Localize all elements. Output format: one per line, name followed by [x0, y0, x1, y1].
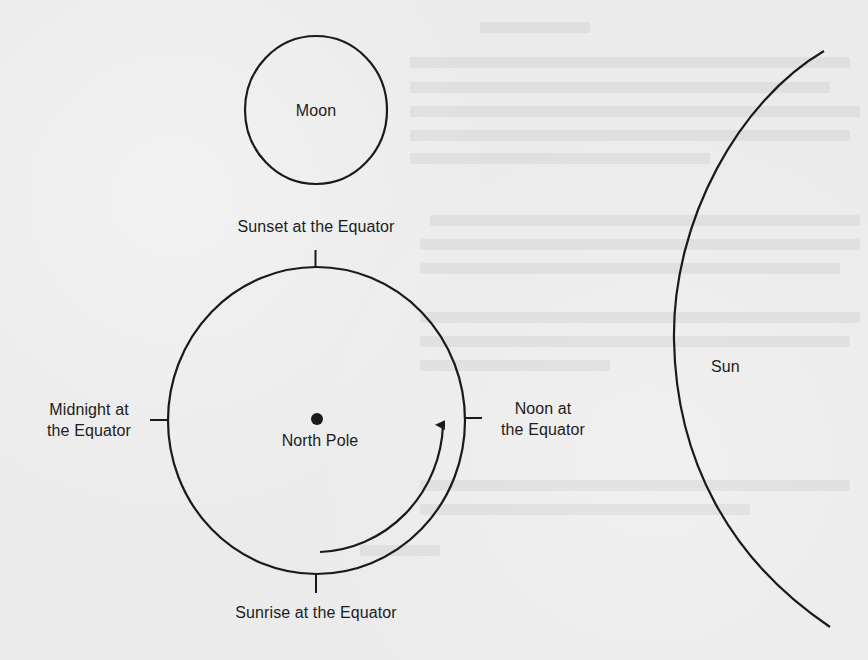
- north-pole-label: North Pole: [265, 430, 375, 451]
- sunset-at-equator-label: Sunset at the Equator: [206, 216, 426, 237]
- scanned-page: Moon Sunset at the Equator Midnight at t…: [0, 0, 868, 660]
- sunrise-at-equator-label: Sunrise at the Equator: [206, 602, 426, 623]
- sun-label: Sun: [711, 356, 740, 377]
- noon-at-equator-label: Noon at the Equator: [484, 398, 602, 440]
- diagram-canvas: [0, 0, 868, 660]
- north-pole-dot: [311, 413, 323, 425]
- moon-label: Moon: [286, 100, 346, 121]
- sun-arc: [674, 51, 830, 627]
- midnight-at-equator-label: Midnight at the Equator: [30, 399, 148, 441]
